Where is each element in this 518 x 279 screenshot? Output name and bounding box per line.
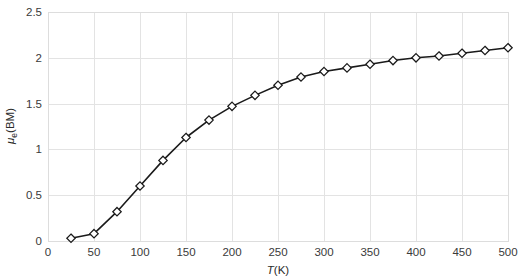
y-tick-label: 0.5 xyxy=(26,189,42,201)
x-tick-label: 100 xyxy=(130,246,149,258)
x-tick-label: 250 xyxy=(268,246,287,258)
chart-figure: 00.511.522.5 050100150200250300350400450… xyxy=(0,0,518,279)
x-tick-label: 200 xyxy=(222,246,241,258)
y-tick-label: 2.5 xyxy=(26,6,42,18)
x-axis-tick-labels: 050100150200250300350400450500 xyxy=(45,246,518,258)
line-chart-svg: 00.511.522.5 050100150200250300350400450… xyxy=(0,0,518,279)
x-tick-label: 50 xyxy=(88,246,101,258)
y-tick-label: 1 xyxy=(36,143,42,155)
x-tick-label: 350 xyxy=(360,246,379,258)
x-axis-title: T(K) xyxy=(267,264,290,276)
x-tick-label: 450 xyxy=(452,246,471,258)
x-tick-label: 400 xyxy=(406,246,425,258)
y-tick-label: 2 xyxy=(36,52,42,64)
y-tick-label: 0 xyxy=(36,235,42,247)
y-axis-title: μe(BM) xyxy=(4,108,19,145)
y-tick-label: 1.5 xyxy=(26,98,42,110)
x-tick-label: 500 xyxy=(498,246,517,258)
x-tick-label: 300 xyxy=(314,246,333,258)
x-tick-label: 0 xyxy=(45,246,51,258)
x-tick-label: 150 xyxy=(176,246,195,258)
y-axis-tick-labels: 00.511.522.5 xyxy=(26,6,42,247)
